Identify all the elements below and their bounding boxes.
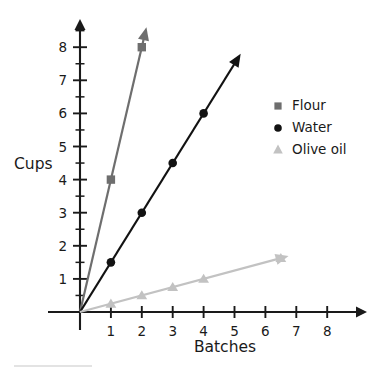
x-axis-tick-labels: 12345678	[107, 323, 332, 339]
legend: FlourWaterOlive oil	[273, 97, 346, 157]
x-tick-label-5: 5	[230, 323, 239, 339]
y-tick-label-7: 7	[58, 72, 67, 88]
x-tick-label-8: 8	[323, 323, 332, 339]
x-tick-label-2: 2	[138, 323, 147, 339]
legend-item-water[interactable]: Water	[274, 119, 332, 135]
y-axis-arrowhead	[75, 19, 86, 30]
square-marker	[274, 102, 281, 109]
triangle-marker	[273, 145, 283, 154]
chart-container: 12345678 12345678 Batches Cups FlourWate…	[0, 0, 374, 373]
square-marker	[138, 43, 146, 51]
square-marker	[107, 175, 115, 183]
series-water	[80, 54, 241, 312]
y-tick-label-5: 5	[58, 139, 67, 155]
arrowhead-water	[229, 54, 241, 68]
line-chart: 12345678 12345678 Batches Cups FlourWate…	[0, 0, 374, 373]
x-tick-label-6: 6	[261, 323, 270, 339]
x-tick-label-3: 3	[168, 323, 177, 339]
circle-marker	[168, 159, 177, 168]
y-axis-tick-labels: 12345678	[58, 39, 67, 287]
x-axis-title: Batches	[194, 338, 256, 356]
arrowhead-flour	[138, 27, 149, 41]
circle-marker	[274, 124, 282, 132]
series-layer	[80, 27, 289, 312]
x-tick-label-4: 4	[199, 323, 208, 339]
axes-group	[48, 19, 367, 330]
legend-item-olive-oil[interactable]: Olive oil	[273, 141, 346, 157]
line-flour	[80, 36, 144, 312]
line-water	[80, 61, 236, 312]
y-tick-label-4: 4	[58, 172, 67, 188]
circle-marker	[199, 109, 208, 118]
legend-item-flour[interactable]: Flour	[274, 97, 326, 113]
legend-label-water: Water	[292, 119, 332, 135]
y-tick-label-3: 3	[58, 205, 67, 221]
circle-marker	[107, 258, 116, 267]
y-axis-title: Cups	[14, 155, 53, 173]
legend-label-olive-oil: Olive oil	[292, 141, 346, 157]
x-axis-arrowhead	[356, 307, 367, 318]
x-tick-label-7: 7	[292, 323, 301, 339]
y-tick-label-2: 2	[58, 238, 67, 254]
legend-label-flour: Flour	[292, 97, 326, 113]
y-tick-label-1: 1	[58, 271, 67, 287]
series-flour	[80, 27, 149, 312]
circle-marker	[138, 208, 147, 217]
x-tick-label-1: 1	[107, 323, 116, 339]
y-tick-label-6: 6	[58, 105, 67, 121]
y-tick-label-8: 8	[58, 39, 67, 55]
